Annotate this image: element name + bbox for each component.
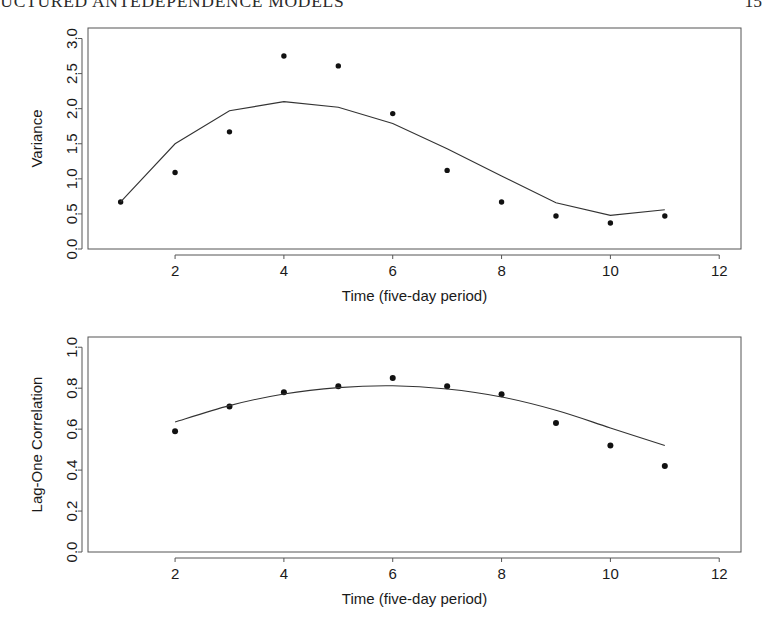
x-tick-label: 12 [711, 262, 728, 279]
data-point [662, 463, 668, 469]
variance-panel: 0.00.51.01.52.02.53.0Variance24681012Tim… [0, 0, 768, 305]
variance-chart: 0.00.51.01.52.02.53.0Variance24681012Tim… [0, 0, 768, 305]
data-point [662, 213, 667, 218]
correlation-chart: 0.00.20.40.60.81.0Lag-One Correlation246… [0, 320, 768, 641]
data-point [499, 199, 504, 204]
plot-frame [88, 28, 741, 249]
data-point [390, 111, 395, 116]
y-tick-label: 3.0 [63, 28, 80, 49]
x-tick-label: 2 [171, 565, 179, 582]
x-tick-label: 10 [602, 262, 619, 279]
x-tick-label: 8 [497, 262, 505, 279]
x-tick-label: 6 [389, 262, 397, 279]
y-axis-title: Variance [28, 109, 45, 167]
y-tick-label: 1.0 [63, 337, 80, 358]
y-tick-label: 1.5 [63, 133, 80, 154]
x-tick-label: 4 [280, 565, 288, 582]
data-point [172, 428, 178, 434]
x-axis-title: Time (five-day period) [342, 287, 487, 304]
x-tick-label: 4 [280, 262, 288, 279]
y-tick-label: 0.4 [63, 460, 80, 481]
correlation-panel: 0.00.20.40.60.81.0Lag-One Correlation246… [0, 320, 768, 641]
x-tick-label: 10 [602, 565, 619, 582]
x-tick-label: 12 [711, 565, 728, 582]
data-point [607, 443, 613, 449]
fitted-curve [121, 102, 665, 216]
y-tick-label: 2.5 [63, 63, 80, 84]
y-tick-label: 0.2 [63, 501, 80, 522]
y-tick-label: 1.0 [63, 168, 80, 189]
data-point [553, 420, 559, 426]
data-point [227, 129, 232, 134]
plot-frame [88, 337, 741, 552]
data-point [336, 63, 341, 68]
x-tick-label: 6 [389, 565, 397, 582]
y-tick-label: 0.0 [63, 542, 80, 563]
y-tick-label: 0.8 [63, 378, 80, 399]
data-point [281, 53, 286, 58]
x-axis-title: Time (five-day period) [342, 590, 487, 607]
data-point [553, 213, 558, 218]
y-tick-label: 0.6 [63, 419, 80, 440]
data-point [608, 220, 613, 225]
y-axis-title: Lag-One Correlation [28, 377, 45, 513]
fitted-curve [175, 386, 665, 446]
y-tick-label: 0.0 [63, 239, 80, 260]
data-point [172, 170, 177, 175]
y-tick-label: 0.5 [63, 203, 80, 224]
y-tick-label: 2.0 [63, 98, 80, 119]
x-tick-label: 2 [171, 262, 179, 279]
data-point [444, 168, 449, 173]
data-point [390, 375, 396, 381]
x-tick-label: 8 [497, 565, 505, 582]
figure-page: RUCTURED ANTEDEPENDENCE MODELS 15 0.00.5… [0, 0, 768, 641]
